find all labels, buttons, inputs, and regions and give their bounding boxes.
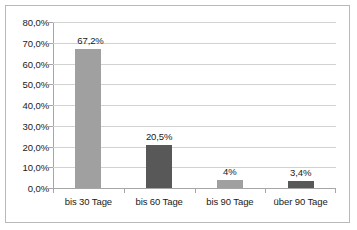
value-axis-tick-label: 40,0% xyxy=(23,100,49,111)
value-axis-tick-label: 70,0% xyxy=(23,37,49,48)
value-axis-tick-label: 30,0% xyxy=(23,120,49,131)
plot-area: 67,2%20,5%4%3,4% xyxy=(53,22,336,188)
bar[interactable] xyxy=(146,145,172,188)
value-axis-tick-label: 10,0% xyxy=(23,162,49,173)
bar-group: 20,5% xyxy=(124,22,195,188)
bar[interactable] xyxy=(75,49,101,188)
category-axis-tick-label: bis 60 Tage xyxy=(135,196,182,207)
value-axis-tick-label: 50,0% xyxy=(23,79,49,90)
bar[interactable] xyxy=(288,181,314,188)
category-axis-tick-label: bis 30 Tage xyxy=(65,196,112,207)
category-axis-tick xyxy=(335,189,336,193)
category-axis-tick-label: bis 90 Tage xyxy=(206,196,253,207)
value-axis-tick-label: 0,0% xyxy=(28,183,49,194)
bar[interactable] xyxy=(217,180,243,188)
chart-frame: 0,0%10,0%20,0%30,0%40,0%50,0%60,0%70,0%8… xyxy=(5,5,350,223)
value-axis-tick-label: 20,0% xyxy=(23,141,49,152)
value-axis-tick-label: 60,0% xyxy=(23,58,49,69)
category-axis-tick xyxy=(195,189,196,193)
bar-value-label: 20,5% xyxy=(146,131,172,142)
category-axis: bis 30 Tagebis 60 Tagebis 90 Tageüber 90… xyxy=(53,189,336,219)
category-axis-tick xyxy=(124,189,125,193)
value-axis-tick-label: 80,0% xyxy=(23,17,49,28)
category-axis-tick xyxy=(265,189,266,193)
bar-group: 3,4% xyxy=(265,22,336,188)
bar-value-label: 67,2% xyxy=(77,35,103,46)
category-axis-tick xyxy=(53,189,54,193)
bar-group: 4% xyxy=(195,22,266,188)
bar-group: 67,2% xyxy=(53,22,124,188)
category-axis-tick-label: über 90 Tage xyxy=(274,196,328,207)
bar-value-label: 3,4% xyxy=(290,167,311,178)
value-axis-labels: 0,0%10,0%20,0%30,0%40,0%50,0%60,0%70,0%8… xyxy=(6,6,49,224)
bar-value-label: 4% xyxy=(223,166,237,177)
